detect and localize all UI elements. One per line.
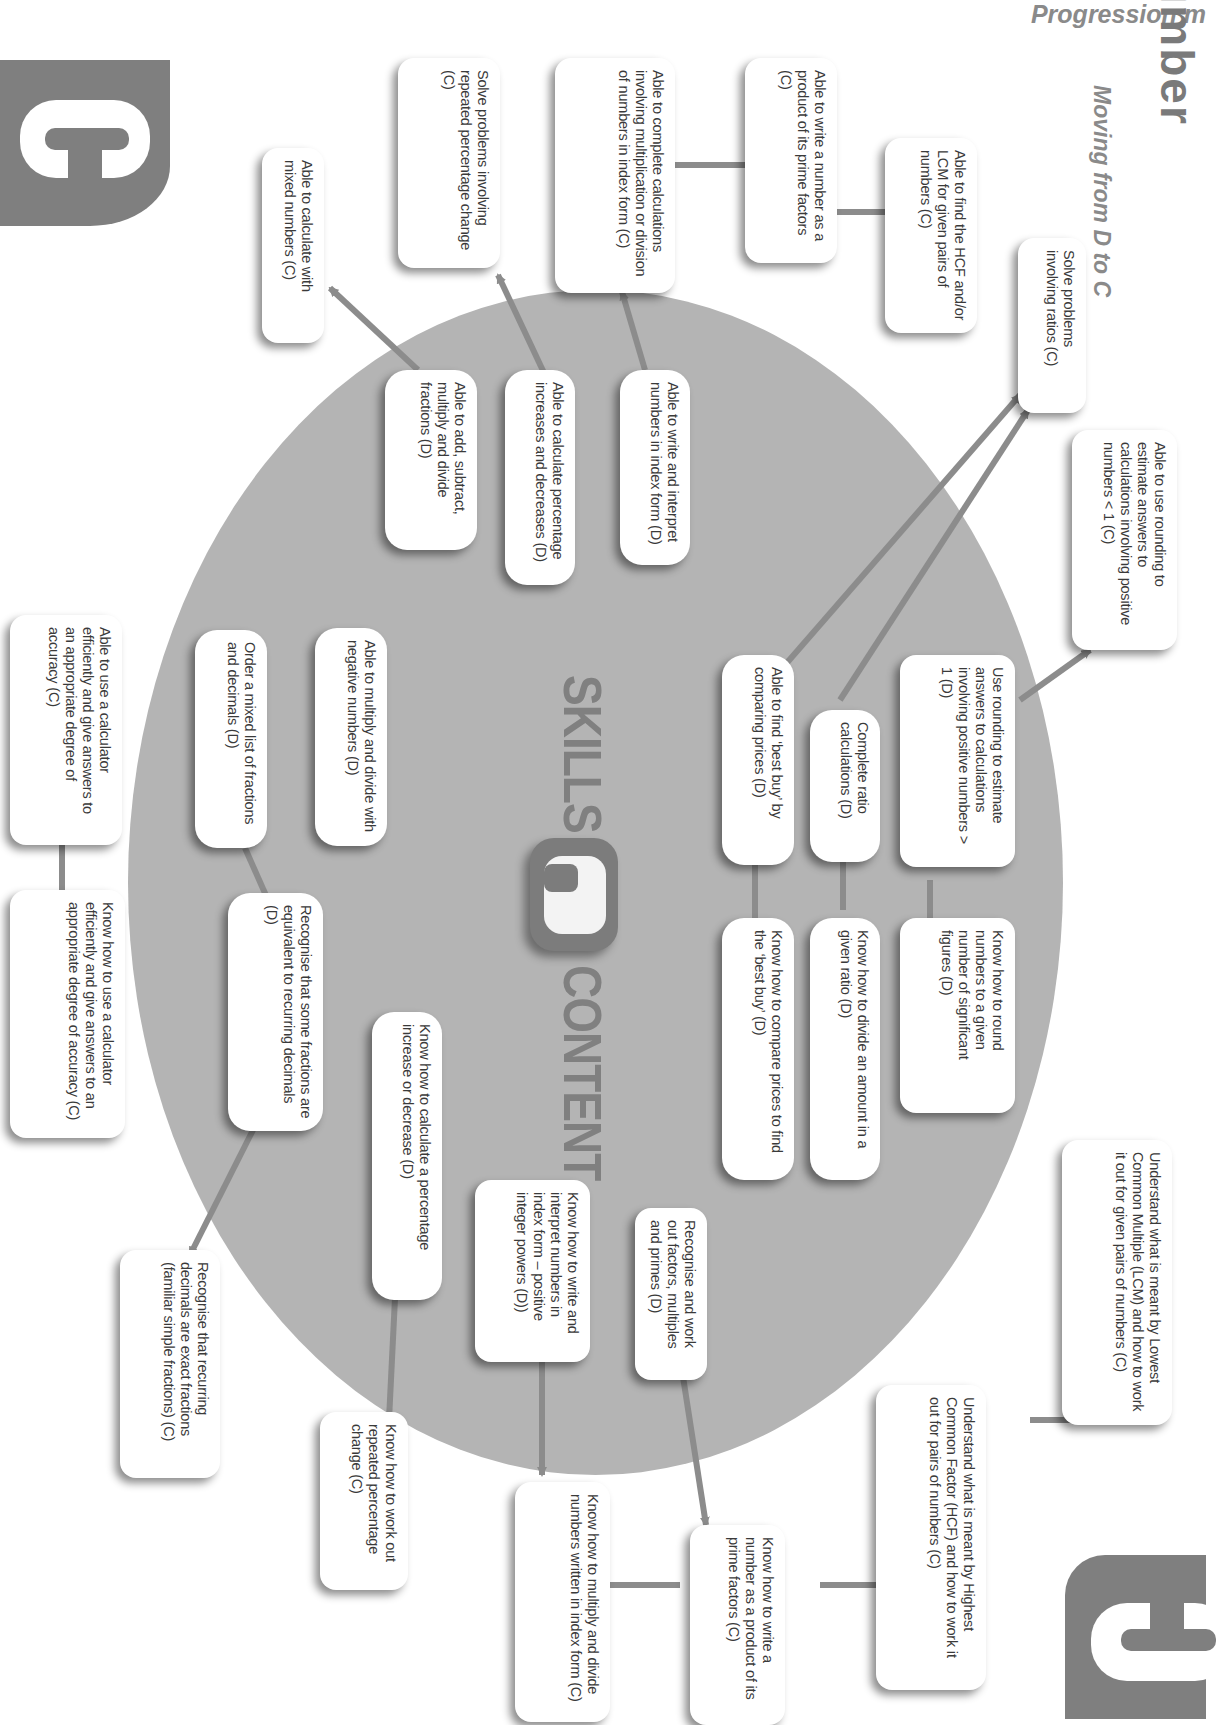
box-text: Know how to write and interpret numbers …	[514, 1192, 581, 1334]
skill-c-hcf-lcm: Able to find the HCF and/or LCM for give…	[885, 138, 977, 333]
content-c-calculator-know: Know how to use a calculator efficiently…	[10, 890, 125, 1138]
content-c-prime-product: Know how to write a number as a product …	[690, 1525, 785, 1725]
skill-d-order-fractions: Order a mixed list of fractions and deci…	[195, 630, 267, 848]
box-text: Complete ratio calculations (D)	[838, 722, 871, 819]
skill-c-repeated-percentage: Solve problems involving repeated percen…	[398, 58, 500, 268]
box-text: Recognise and work out factors, multiple…	[648, 1220, 698, 1349]
page-title: Number	[1150, 0, 1204, 126]
c-letter-stem2	[1150, 1603, 1184, 1641]
box-text: Recognise that some fractions are equiva…	[264, 905, 314, 1118]
skills-label: SKILLS	[551, 675, 613, 833]
content-c-multiply-index: Know how to multiply and divide numbers …	[515, 1482, 610, 1722]
box-text: Able to add, subtract, multiply and divi…	[418, 382, 468, 515]
box-text: Recognise that recurring decimals are ex…	[161, 1262, 211, 1441]
box-text: Able to calculate percentage increases a…	[533, 382, 566, 562]
skill-c-rounding-lt1: Able to use rounding to estimate answers…	[1072, 430, 1177, 650]
skill-c-ratios: Solve problems involving ratios (C)	[1018, 238, 1086, 413]
grade-c-badge-bottom	[1065, 1555, 1206, 1719]
content-label: CONTENT	[551, 965, 613, 1180]
box-text: Know how to calculate a percentage incre…	[400, 1024, 433, 1250]
skill-c-mixed-numbers: Able to calculate with mixed numbers (C)	[262, 148, 324, 343]
box-text: Use rounding to estimate answers to calc…	[939, 667, 1006, 844]
box-text: Know how to divide an amount in a given …	[838, 930, 871, 1148]
content-d-divide-ratio: Know how to divide an amount in a given …	[810, 918, 880, 1180]
skill-c-index-calc: Able to complete calculations involving …	[555, 58, 675, 293]
box-text: Know how to multiply and divide numbers …	[568, 1494, 601, 1702]
content-c-repeated-change: Know how to work out repeated percentage…	[320, 1412, 408, 1590]
box-text: Able to multiply and divide with negativ…	[345, 640, 378, 832]
box-text: Able to write and interpret numbers in i…	[648, 382, 681, 545]
skill-d-rounding-gt1: Use rounding to estimate answers to calc…	[900, 655, 1015, 867]
skill-d-best-buy: Able to find ‘best buy’ by comparing pri…	[722, 655, 794, 865]
box-text: Know how to write a number as a product …	[726, 1537, 776, 1699]
box-text: Solve problems involving ratios (C)	[1044, 250, 1077, 366]
page-subtitle: Moving from D to C	[1088, 85, 1115, 297]
content-c-lcm-meaning: Understand what is meant by Lowest Commo…	[1062, 1140, 1172, 1425]
box-text: Able to write a number as a product of i…	[778, 70, 828, 241]
grade-d-badge-center	[530, 838, 618, 951]
skill-d-add-fractions: Able to add, subtract, multiply and divi…	[385, 370, 477, 550]
box-text: Know how to work out repeated percentage…	[349, 1424, 399, 1562]
content-d-compare-prices: Know how to compare prices to find the ‘…	[722, 918, 794, 1180]
content-c-hcf-meaning: Understand what is meant by Highest Comm…	[876, 1385, 986, 1690]
skill-d-index-form: Able to write and interpret numbers in i…	[620, 370, 690, 565]
content-d-round-sig-figs: Know how to round numbers to a given num…	[900, 918, 1015, 1113]
content-d-calc-percentage: Know how to calculate a percentage incre…	[372, 1012, 442, 1300]
box-text: Solve problems involving repeated percen…	[441, 70, 491, 250]
skill-d-percentage-inc-dec: Able to calculate percentage increases a…	[505, 370, 575, 585]
content-d-recurring-equivalent: Recognise that some fractions are equiva…	[228, 893, 323, 1131]
content-c-recurring-exact: Recognise that recurring decimals are ex…	[120, 1250, 220, 1478]
grade-c-badge-top	[0, 60, 170, 226]
skill-d-negative-numbers: Able to multiply and divide with negativ…	[315, 628, 387, 846]
box-text: Able to use a calculator efficiently and…	[46, 627, 113, 814]
skill-c-prime-factors: Able to write a number as a product of i…	[745, 58, 837, 263]
box-text: Able to find the HCF and/or LCM for give…	[918, 150, 968, 320]
box-text: Able to use rounding to estimate answers…	[1101, 442, 1168, 625]
box-text: Understand what is meant by Lowest Commo…	[1113, 1152, 1163, 1411]
content-d-factors-multiples: Recognise and work out factors, multiple…	[635, 1208, 707, 1380]
content-d-index-positive-powers: Know how to write and interpret numbers …	[475, 1180, 590, 1362]
box-text: Able to complete calculations involving …	[616, 70, 666, 276]
box-text: Able to find ‘best buy’ by comparing pri…	[752, 667, 785, 818]
box-text: Know how to compare prices to find the ‘…	[752, 930, 785, 1153]
skill-d-ratio-calcs: Complete ratio calculations (D)	[810, 710, 880, 862]
box-text: Know how to use a calculator efficiently…	[66, 902, 116, 1120]
d-letter-counter	[544, 864, 578, 892]
box-text: Order a mixed list of fractions and deci…	[225, 642, 258, 824]
box-text: Know how to round numbers to a given num…	[939, 930, 1006, 1060]
box-text: Understand what is meant by Highest Comm…	[927, 1397, 977, 1658]
c-letter-stem2	[68, 140, 102, 178]
box-text: Able to calculate with mixed numbers (C)	[282, 160, 315, 292]
skill-c-calculator: Able to use a calculator efficiently and…	[10, 615, 122, 845]
